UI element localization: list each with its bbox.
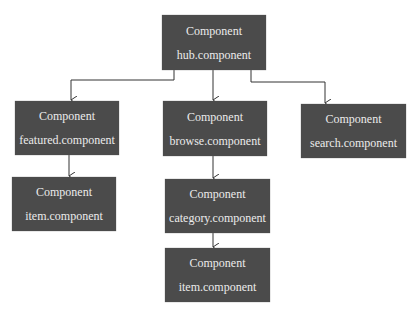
node-kind-label: Component (190, 256, 246, 270)
node-kind-label: Component (187, 110, 243, 124)
edge-hub-search (251, 70, 325, 103)
node-name-label: item.component (25, 209, 103, 223)
node-name-label: featured.component (19, 133, 115, 147)
node-name-label: hub.component (177, 48, 251, 62)
node-kind-label: Component (190, 187, 246, 201)
node-hub-component: Component hub.component (162, 15, 266, 70)
node-item-component-left: Component item.component (12, 177, 116, 231)
node-kind-label: Component (39, 109, 95, 123)
node-kind-label: Component (326, 112, 382, 126)
edge-hub-featured (71, 70, 174, 100)
node-featured-component: Component featured.component (15, 101, 119, 155)
node-browse-component: Component browse.component (163, 101, 267, 156)
node-search-component: Component search.component (301, 104, 406, 158)
node-category-component: Component category.component (165, 179, 270, 233)
node-kind-label: Component (36, 185, 92, 199)
node-name-label: search.component (310, 136, 397, 150)
node-name-label: browse.component (170, 134, 261, 148)
node-kind-label: Component (186, 24, 242, 38)
node-item-component-center: Component item.component (165, 248, 270, 302)
node-name-label: item.component (179, 280, 257, 294)
node-name-label: category.component (169, 211, 266, 225)
